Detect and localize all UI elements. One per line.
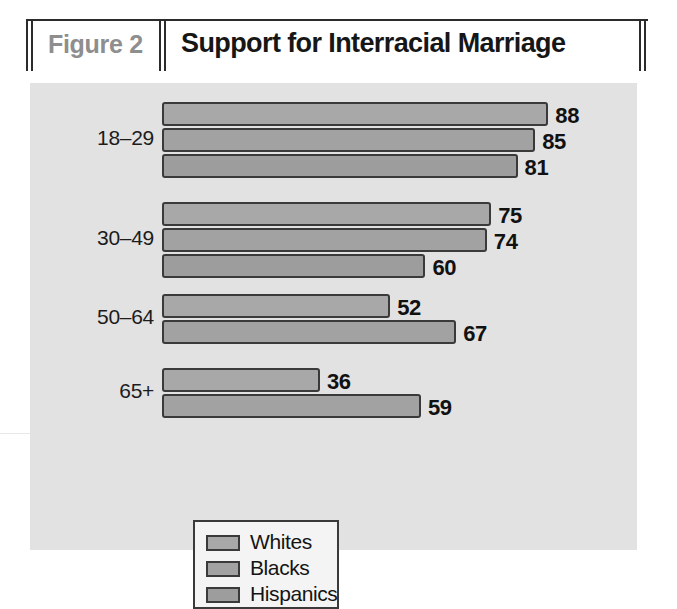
category-label-2: 30–49: [97, 226, 154, 250]
header-right-rule-outer: [639, 21, 641, 71]
category-label-3: 50–64: [97, 305, 154, 329]
legend-label: Whites: [250, 530, 312, 554]
bar-50-64-whites: [162, 294, 390, 318]
legend-label: Hispanics: [250, 582, 337, 606]
chart-panel: 18–2930–4950–6465+88858175746052673659 W…: [30, 83, 637, 550]
bar-30-49-blacks: [162, 228, 487, 252]
bar-65+-whites: [162, 368, 320, 392]
bar-18-29-whites: [162, 102, 548, 126]
scan-artifact-line: [0, 433, 30, 434]
bar-30-49-hispanics: [162, 254, 425, 278]
bar-value-label: 85: [542, 129, 566, 155]
header-left-rule-outer: [26, 21, 28, 71]
legend-swatch-whites: [206, 535, 240, 551]
bar-value-label: 81: [525, 155, 549, 181]
legend-swatch-blacks: [206, 561, 240, 577]
bar-18-29-blacks: [162, 128, 535, 152]
header-mid-rule-outer: [159, 21, 161, 71]
bar-18-29-hispanics: [162, 154, 518, 178]
bar-value-label: 59: [428, 395, 452, 421]
figure-header: Figure 2 Support for Interracial Marriag…: [26, 19, 648, 71]
chart-legend: WhitesBlacksHispanics: [193, 520, 339, 609]
bar-value-label: 36: [327, 369, 351, 395]
legend-label: Blacks: [250, 556, 309, 580]
bar-value-label: 74: [494, 229, 518, 255]
bar-30-49-whites: [162, 202, 491, 226]
category-label-4: 65+: [119, 379, 154, 403]
bar-value-label: 88: [555, 103, 579, 129]
bar-value-label: 75: [498, 203, 522, 229]
bar-value-label: 67: [463, 321, 487, 347]
legend-swatch-hispanics: [206, 587, 240, 603]
header-right-rule-inner: [644, 21, 646, 71]
bar-value-label: 52: [397, 295, 421, 321]
figure-number-label: Figure 2: [48, 30, 143, 59]
figure-title: Support for Interracial Marriage: [181, 28, 565, 59]
category-label-1: 18–29: [97, 126, 154, 150]
bar-65+-blacks: [162, 394, 421, 418]
bar-50-64-blacks: [162, 320, 456, 344]
bar-value-label: 60: [432, 255, 456, 281]
header-mid-rule-inner: [164, 21, 166, 71]
header-left-rule-inner: [31, 21, 33, 71]
